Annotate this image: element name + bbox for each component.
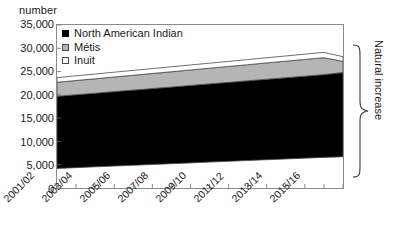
x-tick-label: 2011/12 [191,170,226,205]
population-projection-area-chart: number 35,000 30,000 25,000 20,000 15,00… [0,0,415,242]
white-square-icon [62,57,69,64]
x-tick-label: 2015/16 [267,169,302,204]
chart-legend: North American Indian Métis Inuit [62,27,183,68]
x-tick-label: 2001/02 [1,169,36,204]
x-tick-label: 2005/06 [77,169,112,204]
legend-label: North American Indian [74,27,183,41]
x-tick-label: 2013/14 [229,169,264,204]
natural-increase-brace-icon [352,44,372,178]
legend-label: Métis [74,41,100,55]
annotation-label: Natural increase [373,40,385,54]
legend-item-north-american-indian: North American Indian [62,27,183,41]
gray-square-icon [62,44,69,51]
legend-item-inuit: Inuit [62,54,183,68]
x-tick-label: 2007/08 [115,169,150,204]
black-square-icon [62,30,69,37]
legend-label: Inuit [74,54,95,68]
natural-increase-annotation: Natural increase [372,40,386,175]
x-tick-label: 2009/10 [153,169,188,204]
legend-item-metis: Métis [62,41,183,55]
x-tick-label: 2003/04 [39,169,74,204]
